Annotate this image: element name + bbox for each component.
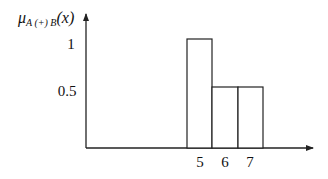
x-tick-label-5: 5 [196, 154, 204, 170]
y-tick-label-0.5: 0.5 [58, 83, 77, 99]
bar-5 [187, 39, 212, 148]
x-tick-label-6: 6 [221, 154, 229, 170]
bar-7 [238, 87, 263, 148]
bar-6 [212, 87, 238, 148]
x-tick-label-7: 7 [246, 154, 254, 170]
y-tick-label-1: 1 [67, 36, 75, 52]
bars [187, 39, 263, 148]
membership-function-chart: μA (+) B(x) 1 0.5 5 6 7 [0, 0, 328, 179]
y-axis-label: μA (+) B(x) [17, 9, 74, 29]
